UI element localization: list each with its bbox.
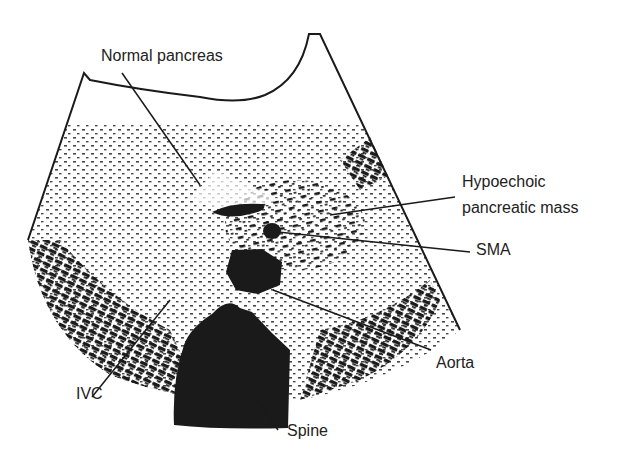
label-mass-line1: Hypoechoic <box>462 172 546 191</box>
label-ivc: IVC <box>76 384 103 403</box>
ultrasound-diagram: Normal pancreas Hypoechoic pancreatic ma… <box>0 0 627 470</box>
label-normal-pancreas: Normal pancreas <box>101 46 223 65</box>
label-spine: Spine <box>287 421 328 440</box>
label-aorta: Aorta <box>436 353 474 372</box>
label-sma: SMA <box>476 240 511 259</box>
label-mass-line2: pancreatic mass <box>462 198 579 217</box>
scan-sector <box>0 34 627 429</box>
sma-shape <box>263 223 281 239</box>
